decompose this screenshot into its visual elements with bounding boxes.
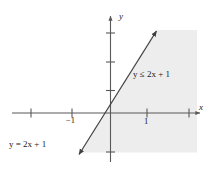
- inequality-graph-figure: y x −1 1 y ≤ 2x + 1 y = 2x + 1: [0, 0, 213, 176]
- x-tick-label-negative-one: −1: [66, 116, 75, 125]
- inequality-annotation: y ≤ 2x + 1: [133, 70, 170, 79]
- x-tick-label-one: 1: [144, 117, 148, 126]
- shaded-solution-region: [81, 30, 198, 153]
- line-equation-annotation: y = 2x + 1: [9, 140, 46, 149]
- y-axis-label: y: [119, 12, 123, 21]
- x-axis-label: x: [199, 103, 203, 112]
- coordinate-plane-svg: [0, 0, 213, 176]
